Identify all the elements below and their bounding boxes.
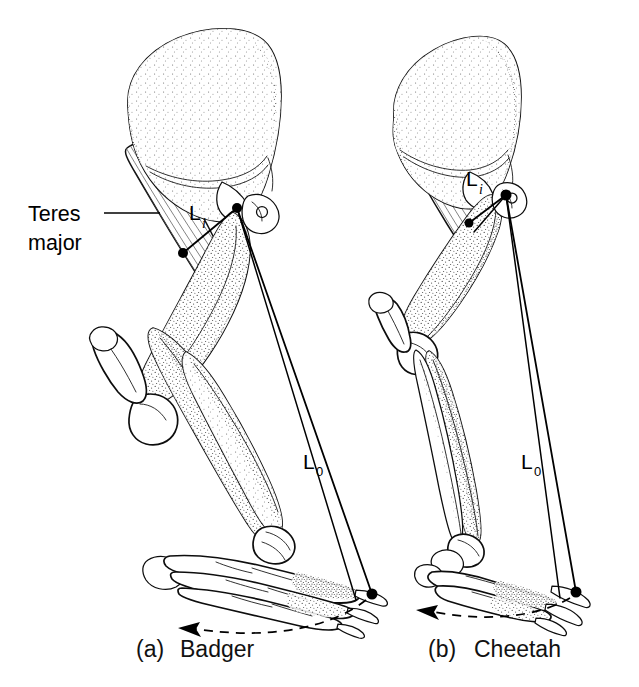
badger-ground-contact-dot: [367, 589, 378, 600]
badger-caption-index: (a): [136, 636, 164, 662]
teres-major-label-line2: major: [28, 231, 82, 255]
badger-shoulder-pivot-dot: [232, 203, 242, 213]
cheetah-shoulder-pivot-dot: [501, 190, 512, 201]
badger-olecranon-tip: [90, 327, 118, 351]
cheetah-ground-contact-dot: [571, 587, 582, 598]
cheetah-li-subscript: i: [479, 182, 483, 197]
badger-caption-name: Badger: [180, 636, 255, 662]
cheetah-caption-index: (b): [428, 636, 456, 662]
badger-l0-base: L: [303, 450, 315, 473]
cheetah-caption: (b) Cheetah: [428, 636, 561, 662]
cheetah-muscle-insertion-dot: [465, 219, 474, 228]
cheetah-li-base: L: [466, 167, 478, 190]
cheetah-l0-subscript: 0: [534, 464, 541, 479]
teres-major-label-line1: Teres: [28, 202, 81, 226]
badger-caption: (a) Badger: [136, 636, 255, 662]
figure-container: Teres major L i L 0 (a) Badger: [0, 0, 639, 687]
badger-li-subscript: i: [202, 216, 206, 231]
cheetah-caption-name: Cheetah: [474, 636, 561, 662]
forelimb-lever-diagram: Teres major L i L 0 (a) Badger: [0, 0, 639, 687]
cheetah-olecranon-tip: [369, 292, 393, 313]
badger-l0-subscript: 0: [316, 464, 323, 479]
badger-muscle-insertion-dot: [178, 248, 188, 258]
badger-li-base: L: [189, 201, 201, 224]
cheetah-l0-base: L: [521, 450, 533, 473]
